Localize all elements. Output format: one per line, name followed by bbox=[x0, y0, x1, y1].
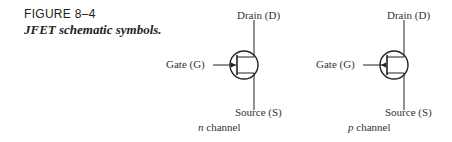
arrow-inward-icon bbox=[231, 63, 236, 68]
n-source-label: Source (S) bbox=[235, 106, 282, 118]
channel-word: channel bbox=[204, 121, 241, 133]
p-channel-jfet-symbol bbox=[363, 20, 408, 110]
n-gate-label: Gate (G) bbox=[166, 58, 205, 70]
p-channel-caption: p channel bbox=[348, 121, 390, 133]
n-drain-label: Drain (D) bbox=[237, 9, 280, 21]
p-source-label: Source (S) bbox=[385, 106, 432, 118]
n-channel-caption: n channel bbox=[198, 121, 240, 133]
p-drain-label: Drain (D) bbox=[387, 9, 430, 21]
n-channel-jfet-symbol bbox=[213, 20, 258, 110]
p-gate-label: Gate (G) bbox=[316, 58, 355, 70]
arrow-outward-icon bbox=[381, 63, 386, 68]
channel-word: channel bbox=[354, 121, 391, 133]
